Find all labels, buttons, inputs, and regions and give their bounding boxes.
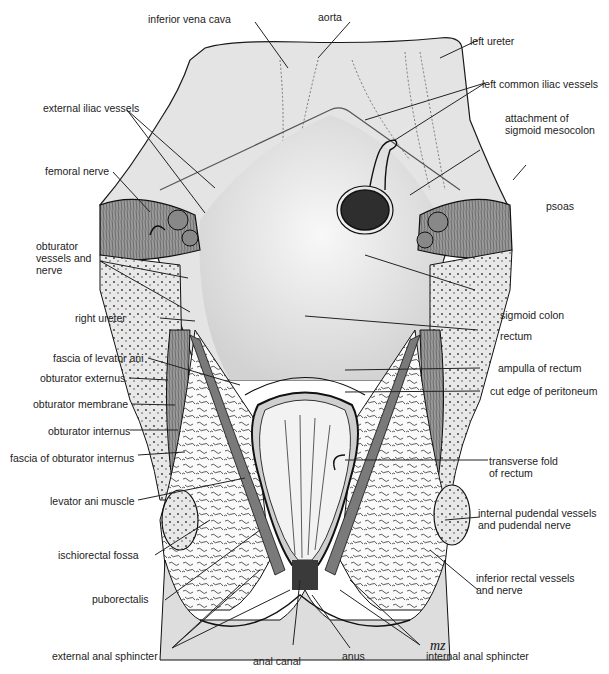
label-fascia-obturator-internus: fascia of obturator internus: [10, 452, 134, 464]
label-rectum: rectum: [500, 330, 532, 342]
label-cut-edge-peritoneum: cut edge of peritoneum: [490, 385, 597, 397]
label-right-ureter: right ureter: [75, 312, 126, 324]
label-left-ureter: left ureter: [470, 35, 514, 47]
label-left-common-iliac-vessels: left common iliac vessels: [482, 78, 598, 90]
label-obturator-vessels-nerve: obturator vessels and nerve: [36, 240, 91, 276]
anal-canal-region: [292, 560, 318, 590]
label-aorta: aorta: [318, 11, 342, 23]
label-sigmoid-colon: sigmoid colon: [500, 309, 564, 321]
sigmoid-colon-section: [341, 190, 389, 230]
anatomy-figure: mz: [0, 0, 609, 674]
label-femoral-nerve: femoral nerve: [45, 165, 109, 177]
label-obturator-internus: obturator internus: [48, 425, 130, 437]
label-inferior-rectal: inferior rectal vessels and nerve: [476, 572, 575, 596]
label-internal-pudendal: internal pudendal vessels and pudendal n…: [478, 507, 597, 531]
label-inferior-vena-cava: inferior vena cava: [148, 13, 231, 25]
label-anal-canal: anal canal: [253, 655, 301, 667]
label-obturator-membrane: obturator membrane: [33, 398, 128, 410]
label-psoas: psoas: [546, 200, 574, 212]
label-ischiorectal-fossa: ischiorectal fossa: [58, 549, 139, 561]
label-levator-ani-muscle: levator ani muscle: [50, 495, 135, 507]
right-ischial-tuberosity: [162, 490, 198, 550]
label-transverse-fold-rectum: transverse fold of rectum: [489, 455, 558, 479]
left-ischial-tuberosity: [434, 485, 470, 545]
label-attachment-sigmoid-mesocolon: attachment of sigmoid mesocolon: [505, 112, 595, 136]
label-puborectalis: puborectalis: [92, 593, 149, 605]
label-external-iliac-vessels: external iliac vessels: [43, 102, 139, 114]
label-fascia-levator-ani: fascia of levator ani: [53, 352, 143, 364]
label-external-anal-sphincter: external anal sphincter: [52, 650, 158, 662]
label-ampulla-rectum: ampulla of rectum: [498, 362, 581, 374]
label-anus: anus: [342, 650, 365, 662]
label-obturator-externus: obturator externus: [40, 372, 125, 384]
label-internal-anal-sphincter: internal anal sphincter: [426, 650, 529, 662]
